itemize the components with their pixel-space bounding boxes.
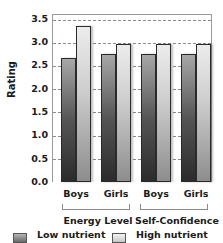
group-label-confidence: Self-Confidence [132,215,222,226]
y-tick: 1.0 [20,129,48,140]
legend-label-high: High nutrient [136,229,208,240]
group-bracket-confidence [140,204,208,210]
y-tick: 1.5 [20,106,48,117]
y-tick: 2.0 [20,83,48,94]
bar-high-1 [116,44,131,182]
bar-low-2 [141,54,156,182]
x-tick-confidence-boys: Boys [136,188,176,199]
y-axis-label: Rating [6,61,17,98]
group-label-energy: Energy Level [58,215,138,226]
legend-swatch-high [112,233,126,243]
y-tick: 3.0 [20,36,48,47]
gridline [53,20,211,21]
y-tick: 0.5 [20,153,48,164]
legend-swatch-low [13,233,27,243]
x-tick-energy-girls: Girls [96,188,136,199]
bar-high-2 [156,44,171,182]
bar-high-3 [196,44,211,182]
bar-low-1 [101,54,116,182]
x-tick-energy-boys: Boys [56,188,96,199]
y-tick: 3.5 [20,13,48,24]
group-bracket-energy [62,204,130,210]
bar-high-0 [76,26,91,182]
bar-low-0 [61,58,76,182]
legend-label-low: Low nutrient [37,229,105,240]
bar-low-3 [181,54,196,182]
y-tick: 2.5 [20,59,48,70]
x-tick-confidence-girls: Girls [176,188,216,199]
plot-area [52,14,212,182]
y-tick: 0.0 [20,176,48,187]
